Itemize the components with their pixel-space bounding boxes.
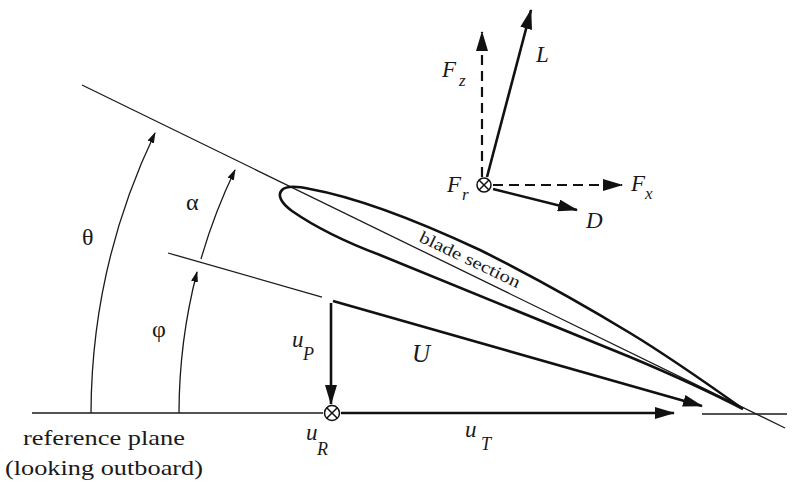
theta-arc-arrow — [91, 133, 155, 413]
drag-arrow — [493, 189, 577, 210]
normal-force-symbol: F — [441, 57, 457, 82]
perpendicular-velocity-subscript: P — [302, 344, 314, 364]
lift-label: L — [535, 42, 549, 67]
alpha-arc-arrow — [201, 170, 235, 259]
radial-force-symbol: F — [446, 172, 462, 197]
phi-label: φ — [152, 316, 166, 342]
perpendicular-velocity-symbol: u — [292, 327, 304, 352]
circled-times-icon — [477, 178, 491, 192]
tangential-velocity-symbol: u — [465, 417, 477, 442]
reference-plane-caption-note: (looking outboard) — [5, 455, 203, 480]
resultant-velocity-label: U — [412, 340, 432, 367]
inplane-force-symbol: F — [630, 171, 646, 196]
inflow-line — [168, 253, 322, 297]
tangential-velocity-subscript: T — [481, 434, 493, 454]
chord-line — [82, 85, 785, 428]
normal-force-subscript: z — [458, 71, 466, 90]
phi-arc-arrow — [179, 272, 197, 413]
diagram-svg: θ α φ blade section U u P u R u T L D F … — [0, 0, 793, 493]
radial-force-subscript: r — [462, 185, 469, 204]
alpha-label: α — [186, 189, 199, 215]
radial-velocity-subscript: R — [316, 439, 328, 459]
inplane-force-subscript: x — [644, 184, 653, 203]
lift-arrow — [487, 10, 531, 177]
drag-label: D — [585, 208, 603, 233]
resultant-velocity-arrow — [333, 301, 702, 406]
blade-section-label: blade section — [416, 227, 524, 292]
radial-velocity-symbol: u — [306, 420, 318, 445]
theta-label: θ — [82, 224, 94, 250]
blade-element-diagram: θ α φ blade section U u P u R u T L D F … — [0, 0, 793, 493]
blade-section-airfoil — [280, 187, 743, 409]
circled-times-icon — [325, 406, 340, 421]
reference-plane-caption: reference plane — [23, 425, 185, 450]
